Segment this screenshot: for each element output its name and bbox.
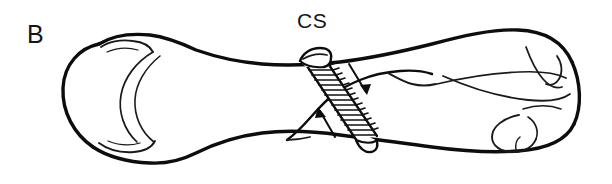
figure-panel: B CS [0,0,612,184]
compression-screw-label: CS [297,10,327,31]
panel-letter-label: B [27,22,44,47]
